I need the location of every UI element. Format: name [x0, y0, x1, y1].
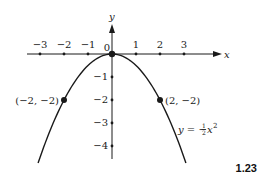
x-tick-label: 3	[181, 39, 187, 50]
x-tick-label: 1	[133, 39, 139, 50]
svg-text:2: 2	[202, 129, 206, 136]
origin-label: 0	[104, 42, 110, 53]
y-tick-label: −4	[93, 140, 108, 151]
equation-label: y = − 1 2 x 2	[177, 122, 217, 136]
point-label-2-neg2: (2, −2)	[165, 95, 200, 106]
x-tick-label: −2	[57, 39, 72, 50]
point-neg2-neg2	[61, 97, 67, 103]
svg-text:2: 2	[213, 122, 217, 130]
x-axis-label: x	[224, 49, 230, 60]
y-axis-label: y	[108, 11, 115, 22]
point-label-neg2-neg2: (−2, −2)	[15, 95, 59, 106]
x-tick-label: 2	[157, 39, 163, 50]
y-tick-label: −3	[93, 117, 108, 128]
point-2-neg2	[157, 97, 163, 103]
y-axis-arrow-icon	[109, 24, 115, 33]
svg-text:1: 1	[202, 122, 206, 129]
y-tick-label: −1	[93, 71, 108, 82]
x-tick-label: −3	[33, 39, 48, 50]
y-tick-label: −2	[93, 94, 108, 105]
x-tick-label: −1	[81, 39, 96, 50]
point-origin	[109, 51, 115, 57]
x-axis-arrow-icon	[213, 51, 222, 57]
figure-number: 1.23	[236, 162, 257, 174]
parabola-graph: x y −3 −2 −1 0 1 2 3 −1 −2 −3 −4 (−2, −2…	[0, 0, 261, 181]
